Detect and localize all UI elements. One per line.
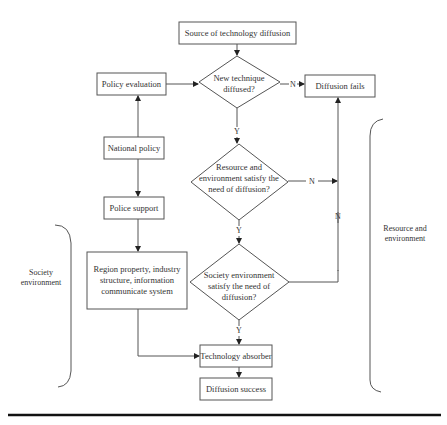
edge-label-no-2: N bbox=[309, 177, 315, 186]
node-society-check-line1: Society environment bbox=[204, 270, 275, 280]
node-region-property-line2: structure, information bbox=[100, 275, 175, 285]
node-national-policy: National policy bbox=[104, 137, 164, 159]
node-national-policy-label: National policy bbox=[108, 143, 161, 153]
society-group-label-line2: environment bbox=[21, 278, 62, 287]
flowchart: Source of technology diffusion New techn… bbox=[0, 0, 447, 425]
node-diffusion-success: Diffusion success bbox=[200, 378, 272, 400]
node-source: Source of technology diffusion bbox=[179, 22, 296, 44]
node-technology-absorber: Technology absorber bbox=[200, 345, 272, 367]
node-police-support: Police support bbox=[104, 197, 164, 219]
node-source-label: Source of technology diffusion bbox=[185, 28, 291, 38]
node-police-support-label: Police support bbox=[110, 203, 160, 213]
node-resource-check: Resource and environment satisfy the nee… bbox=[191, 144, 288, 220]
node-policy-evaluation-label: Policy evaluation bbox=[102, 79, 162, 89]
node-diffusion-fails-label: Diffusion fails bbox=[315, 81, 364, 91]
node-society-check-line3: diffusion? bbox=[222, 292, 257, 302]
edge-label-yes-2: Y bbox=[236, 226, 242, 235]
society-group-label-line1: Society bbox=[29, 268, 53, 277]
edge-society-no bbox=[289, 270, 338, 282]
node-diffusion-success-label: Diffusion success bbox=[206, 384, 266, 394]
node-resource-check-line2: environment satisfy the bbox=[199, 173, 279, 183]
edge-label-yes-3: Y bbox=[236, 326, 242, 335]
node-new-technique: New technique diffused? bbox=[199, 56, 280, 108]
node-new-technique-line1: New technique bbox=[213, 73, 264, 83]
node-technology-absorber-label: Technology absorber bbox=[200, 351, 272, 361]
node-resource-check-line1: Resource and bbox=[216, 162, 263, 172]
resource-group-label-line1: Resource and bbox=[383, 224, 426, 233]
resource-group-brace bbox=[370, 119, 383, 392]
node-resource-check-line3: need of diffusion? bbox=[208, 184, 270, 194]
society-group-brace bbox=[55, 225, 71, 387]
node-region-property-line3: communicate system bbox=[101, 286, 173, 296]
edge-label-no-1: N bbox=[290, 80, 296, 89]
node-society-check-line2: satisfy the need of bbox=[208, 281, 270, 291]
node-policy-evaluation: Policy evaluation bbox=[97, 73, 166, 95]
edge-region-to-absorber bbox=[138, 309, 199, 356]
resource-group-label-line2: environment bbox=[385, 234, 426, 243]
node-new-technique-line2: diffused? bbox=[223, 84, 255, 94]
edge-label-yes-1: Y bbox=[234, 127, 240, 136]
node-region-property-line1: Region property, industry bbox=[93, 264, 181, 274]
node-society-check: Society environment satisfy the need of … bbox=[190, 244, 289, 320]
node-diffusion-fails: Diffusion fails bbox=[305, 75, 375, 97]
node-region-property: Region property, industry structure, inf… bbox=[87, 252, 187, 309]
